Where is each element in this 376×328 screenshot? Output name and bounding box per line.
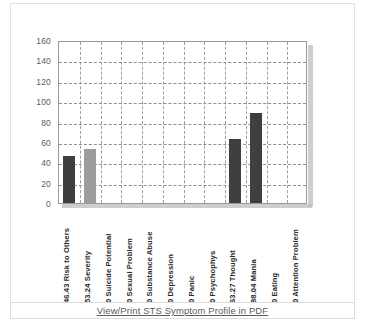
footer-bar: View/Print STS Symptom Profile in PDF xyxy=(10,302,355,319)
x-axis-tick-label: 0 Panic xyxy=(187,276,196,303)
gridline-vertical xyxy=(142,42,143,203)
bar xyxy=(63,156,75,203)
gridline-horizontal xyxy=(59,144,306,145)
symptom-profile-chart: 160140120100806040200 46.43 Risk to Othe… xyxy=(21,8,366,304)
plot-shadow-right xyxy=(308,45,313,207)
x-axis-tick-label: 0 Suicide Potential xyxy=(104,234,113,303)
x-axis-tick-label: 46.43 Risk to Others xyxy=(62,228,71,303)
gridline-horizontal xyxy=(59,124,306,125)
gridline-vertical xyxy=(163,42,164,203)
y-axis-tick-label: 120 xyxy=(21,78,51,86)
x-axis-tick-label: 0 Sexual Problem xyxy=(125,238,134,303)
gridline-vertical xyxy=(80,42,81,203)
gridline-vertical xyxy=(184,42,185,203)
gridline-vertical xyxy=(287,42,288,203)
y-axis-tick-label: 100 xyxy=(21,98,51,106)
x-axis-tick-label: 0 Substance Abuse xyxy=(145,232,154,303)
y-axis-tick-label: 140 xyxy=(21,57,51,65)
x-axis-tick-label: 53.24 Severity xyxy=(83,251,92,303)
gridline-horizontal xyxy=(59,83,306,84)
x-axis-tick-label: 88.04 Mania xyxy=(249,259,258,303)
gridline-horizontal xyxy=(59,103,306,104)
x-axis-tick-label: 63.27 Thought xyxy=(228,250,237,303)
x-axis-tick-label: 0 Eating xyxy=(270,273,279,303)
y-axis-tick-label: 20 xyxy=(21,180,51,188)
x-axis-tick-label: 0 Depression xyxy=(166,254,175,303)
gridline-vertical xyxy=(225,42,226,203)
gridline-horizontal xyxy=(59,62,306,63)
bar xyxy=(229,139,241,203)
y-axis-tick-label: 0 xyxy=(21,200,51,208)
y-axis-tick-label: 80 xyxy=(21,119,51,127)
y-axis-tick-label: 40 xyxy=(21,159,51,167)
x-axis-tick-label: 0 Psychophys xyxy=(208,251,217,303)
plot-area xyxy=(58,41,307,204)
gridline-vertical xyxy=(267,42,268,203)
y-axis: 160140120100806040200 xyxy=(21,41,51,204)
y-axis-tick-label: 60 xyxy=(21,139,51,147)
x-axis-tick-label: 0 Attention Problem xyxy=(291,229,300,303)
view-print-pdf-link[interactable]: View/Print STS Symptom Profile in PDF xyxy=(97,305,268,316)
y-axis-tick-label: 160 xyxy=(21,37,51,45)
bar xyxy=(250,113,262,203)
x-axis: 46.43 Risk to Others53.24 Severity0 Suic… xyxy=(58,207,307,303)
gridline-vertical xyxy=(101,42,102,203)
gridline-vertical xyxy=(204,42,205,203)
chart-panel: 160140120100806040200 46.43 Risk to Othe… xyxy=(10,3,355,319)
gridline-vertical xyxy=(246,42,247,203)
gridline-vertical xyxy=(121,42,122,203)
bar xyxy=(84,149,96,203)
